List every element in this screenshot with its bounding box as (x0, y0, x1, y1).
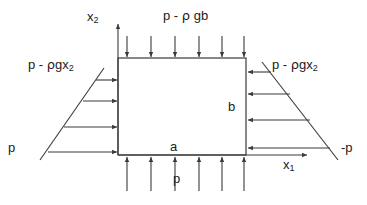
x1-axis-label: x1 (283, 158, 295, 173)
element-height-label: b (228, 100, 235, 113)
diagram-svg (0, 0, 367, 205)
bottom-load-label: p (173, 172, 180, 185)
right-pressure-arrows (248, 72, 330, 148)
fluid-element-rect (118, 58, 246, 155)
figure-canvas: x2 x1 p - ρ gb p - ρgx2 p p - ρgx2 -p a … (0, 0, 367, 205)
left-pressure-envelope (40, 68, 104, 160)
element-width-label: a (170, 140, 177, 153)
left-pressure-arrows (48, 80, 117, 152)
top-load-label: p - ρ gb (163, 9, 208, 22)
right-pressure-envelope (262, 62, 338, 160)
right-base-pressure-label: -p (341, 141, 353, 154)
bottom-pressure-arrows (127, 157, 244, 191)
left-load-label: p - ρgx2 (28, 58, 74, 73)
left-base-pressure-label: p (8, 141, 15, 154)
right-load-label: p - ρgx2 (272, 58, 318, 73)
x2-axis-label: x2 (87, 10, 99, 25)
top-pressure-arrows (118, 36, 246, 57)
